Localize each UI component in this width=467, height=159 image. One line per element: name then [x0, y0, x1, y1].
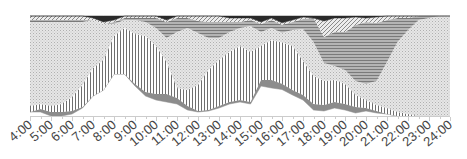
- x-ticks: [31, 117, 451, 121]
- x-tick-labels: 4:005:006:007:008:009:0010:0011:0012:001…: [6, 117, 455, 149]
- area-layers: [30, 16, 450, 116]
- stacked-area-chart: 4:005:006:007:008:009:0010:0011:0012:001…: [0, 0, 467, 159]
